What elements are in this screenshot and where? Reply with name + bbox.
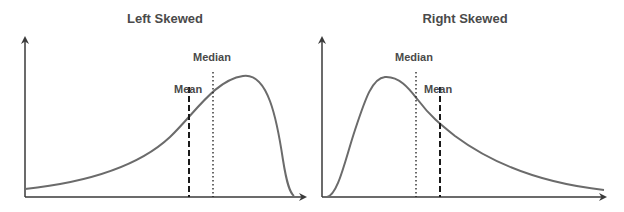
left-skewed-panel: Left Skewed Mean Median <box>25 11 303 197</box>
right-panel-title: Right Skewed <box>422 11 507 26</box>
left-median-label: Median <box>193 51 231 63</box>
left-mean-label: Mean <box>174 83 202 95</box>
right-mean-label: Mean <box>424 83 452 95</box>
right-median-label: Median <box>395 51 433 63</box>
left-skewed-curve <box>25 76 294 196</box>
skewness-diagram: Left Skewed Mean Median Right Skewed Med… <box>0 0 624 212</box>
right-skewed-panel: Right Skewed Median Mean <box>322 11 604 197</box>
right-skewed-curve <box>327 77 604 197</box>
left-panel-title: Left Skewed <box>127 11 203 26</box>
